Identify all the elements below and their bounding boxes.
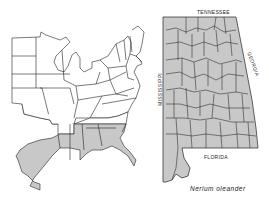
species-caption: Nerium oleander [190,185,246,192]
us-map [12,26,144,190]
label-tennessee: TENNESSEE [197,9,230,15]
label-florida: FLORIDA [204,154,228,160]
us-shaded-range [16,124,136,190]
label-mississippi: MISSISSIPPI [157,73,163,106]
figure-canvas [0,0,269,200]
